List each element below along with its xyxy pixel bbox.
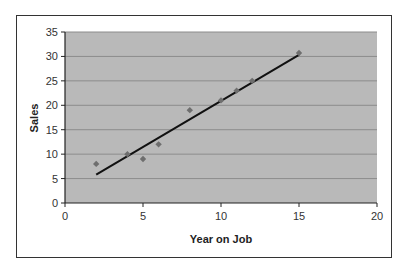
y-tick-label: 20: [46, 99, 58, 111]
y-tick-label: 35: [46, 26, 58, 38]
x-axis-title: Year on Job: [190, 233, 253, 245]
y-tick-label: 10: [46, 148, 58, 160]
y-tick-label: 0: [52, 197, 58, 209]
y-tick-label: 15: [46, 124, 58, 136]
y-tick-label: 25: [46, 75, 58, 87]
x-tick-label: 20: [371, 210, 383, 222]
y-tick-label: 30: [46, 50, 58, 62]
y-tick-label: 5: [52, 173, 58, 185]
y-axis-title: Sales: [28, 104, 40, 133]
plot-area: [65, 32, 377, 203]
x-tick-label: 10: [215, 210, 227, 222]
scatter-chart: 05101520253035 05101520 Year on Job Sale…: [0, 0, 406, 272]
x-tick-label: 15: [293, 210, 305, 222]
y-axis-ticks: 05101520253035: [46, 26, 65, 209]
x-tick-label: 0: [62, 210, 68, 222]
x-tick-label: 5: [140, 210, 146, 222]
x-axis-ticks: 05101520: [62, 203, 383, 222]
